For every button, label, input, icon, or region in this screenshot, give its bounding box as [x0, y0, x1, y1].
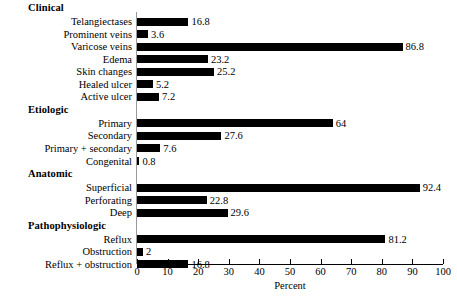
bar — [137, 93, 159, 101]
axis-tick-label: 50 — [277, 266, 303, 277]
bar-category-label: Perforating — [0, 195, 132, 206]
bar-row: Congenital0.8 — [0, 156, 457, 167]
bar-value-label: 16.8 — [191, 16, 209, 27]
bar-row: Prominent veins3.6 — [0, 29, 457, 40]
group-header-clinical: Clinical — [28, 2, 64, 13]
axis-tick-label: 0 — [124, 266, 150, 277]
bar-value-label: 92.4 — [423, 182, 441, 193]
bar-row: Deep29.6 — [0, 207, 457, 218]
axis-tick-label: 30 — [216, 266, 242, 277]
axis-tick-label: 20 — [185, 266, 211, 277]
bar — [137, 119, 333, 127]
axis-tick — [229, 259, 230, 264]
bar-value-label: 86.8 — [406, 41, 424, 52]
bar-value-label: 29.6 — [231, 207, 249, 218]
bar — [137, 68, 214, 76]
bar — [137, 132, 221, 140]
bar-category-label: Congenital — [0, 156, 132, 167]
axis-tick — [321, 259, 322, 264]
axis-tick-label: 100 — [430, 266, 456, 277]
axis-tick-label: 70 — [338, 266, 364, 277]
bar-row: Healed ulcer5.2 — [0, 79, 457, 90]
bar-row: Perforating22.8 — [0, 195, 457, 206]
axis-tick — [168, 259, 169, 264]
bar-row: Obstruction2 — [0, 246, 457, 257]
bar-category-label: Healed ulcer — [0, 79, 132, 90]
bar-category-label: Secondary — [0, 130, 132, 141]
bar-category-label: Deep — [0, 207, 132, 218]
axis-tick — [137, 259, 138, 264]
group-header-etiologic: Etiologic — [28, 104, 69, 115]
axis-tick-label: 40 — [246, 266, 272, 277]
bar-value-label: 7.6 — [163, 143, 176, 154]
bar-category-label: Reflux — [0, 234, 132, 245]
bar — [137, 144, 160, 152]
bar-category-label: Telangiectases — [0, 16, 132, 27]
axis-tick — [198, 259, 199, 264]
bar — [137, 235, 385, 243]
bar — [137, 80, 153, 88]
bar-row: Reflux81.2 — [0, 234, 457, 245]
bar-category-label: Primary — [0, 118, 132, 129]
bar-row: Superficial92.4 — [0, 182, 457, 193]
bar-row: Secondary27.6 — [0, 130, 457, 141]
axis-tick-label: 60 — [308, 266, 334, 277]
bar-row: Skin changes25.2 — [0, 66, 457, 77]
x-axis-title: Percent — [137, 280, 443, 291]
bar-category-label: Superficial — [0, 182, 132, 193]
bar-value-label: 64 — [336, 118, 347, 129]
bar-category-label: Primary + secondary — [0, 143, 132, 154]
bar-category-label: Reflux + obstruction — [0, 259, 132, 270]
bar-row: Edema23.2 — [0, 54, 457, 65]
bar-category-label: Obstruction — [0, 246, 132, 257]
bar — [137, 157, 139, 165]
axis-tick — [382, 259, 383, 264]
bar-value-label: 2 — [146, 246, 151, 257]
bar-category-label: Skin changes — [0, 66, 132, 77]
bar-row: Varicose veins86.8 — [0, 41, 457, 52]
bar — [137, 55, 208, 63]
bar-value-label: 27.6 — [224, 130, 242, 141]
bar-value-label: 3.6 — [151, 29, 164, 40]
bar — [137, 196, 207, 204]
bar-row: Active ulcer7.2 — [0, 91, 457, 102]
bar-value-label: 81.2 — [388, 234, 406, 245]
axis-tick — [412, 259, 413, 264]
bar-value-label: 23.2 — [211, 54, 229, 65]
bar — [137, 30, 148, 38]
group-header-anatomic: Anatomic — [28, 168, 73, 179]
horizontal-bar-chart: Percent ClinicalTelangiectases16.8Promin… — [0, 0, 457, 301]
bar-category-label: Edema — [0, 54, 132, 65]
axis-tick — [290, 259, 291, 264]
bar-value-label: 0.8 — [142, 156, 155, 167]
bar-row: Primary + secondary7.6 — [0, 143, 457, 154]
bar-category-label: Active ulcer — [0, 91, 132, 102]
group-header-pathophysiologic: Pathophysiologic — [28, 220, 106, 231]
axis-tick-label: 10 — [155, 266, 181, 277]
bar — [137, 209, 228, 217]
bar-row: Telangiectases16.8 — [0, 16, 457, 27]
bar-value-label: 5.2 — [156, 79, 169, 90]
axis-tick — [351, 259, 352, 264]
bar-category-label: Varicose veins — [0, 41, 132, 52]
axis-tick-label: 90 — [399, 266, 425, 277]
bar — [137, 18, 188, 26]
bar-value-label: 22.8 — [210, 195, 228, 206]
bar — [137, 43, 403, 51]
axis-tick-label: 80 — [369, 266, 395, 277]
axis-tick — [443, 259, 444, 264]
bar — [137, 248, 143, 256]
bar — [137, 184, 420, 192]
bar-category-label: Prominent veins — [0, 29, 132, 40]
bar-row: Primary64 — [0, 118, 457, 129]
axis-tick — [259, 259, 260, 264]
bar-value-label: 7.2 — [162, 91, 175, 102]
bar-value-label: 25.2 — [217, 66, 235, 77]
